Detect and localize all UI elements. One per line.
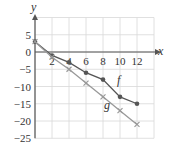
y-tick-label: −10 [14,81,32,93]
y-axis-arrow-icon [32,14,38,20]
series-label-g: g [104,98,110,112]
data-point-f [118,95,123,100]
y-axis-label: y [30,0,37,14]
axes [32,14,161,138]
x-tick-label: 10 [115,55,127,67]
data-point-f [67,60,72,65]
x-tick-label: 12 [132,55,143,67]
y-tick-label: −15 [14,98,32,110]
y-tick-label: 0 [26,46,32,58]
y-tick-label: 5 [26,29,32,41]
x-tick-label: 6 [83,55,89,67]
x-tick-label: 8 [100,55,106,67]
grid [35,18,154,139]
y-tick-label: −20 [14,115,32,127]
data-point-f [135,101,140,106]
series-label-f: f [117,73,122,87]
line-chart: 2468101250−5−10−15−20−25 y x f g [0,0,174,150]
y-tick-label: −25 [14,132,32,144]
x-axis-label: x [157,44,164,58]
data-point-f [84,70,89,75]
y-tick-label: −5 [19,63,31,75]
data-point-f [101,77,106,82]
